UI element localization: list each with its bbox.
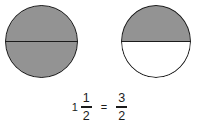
circle-whole-bottom-half xyxy=(5,42,78,79)
improper-fraction-denominator: 2 xyxy=(118,109,125,123)
circle-models-row xyxy=(0,0,199,84)
mixed-number-whole: 1 xyxy=(72,101,78,113)
fraction-equation: 1 1 2 = 3 2 xyxy=(0,88,199,126)
circle-model-whole xyxy=(5,5,78,78)
circle-model-half xyxy=(121,5,191,78)
mixed-number-numerator: 1 xyxy=(83,91,90,105)
circle-half-top-half xyxy=(121,5,191,42)
improper-fraction-numerator: 3 xyxy=(118,91,125,105)
circle-whole-top-half xyxy=(5,5,78,42)
equals-sign: = xyxy=(101,101,107,113)
circle-half-bottom-half xyxy=(121,42,191,79)
fraction-figure: 1 1 2 = 3 2 xyxy=(0,0,199,126)
improper-fraction-stack: 3 2 xyxy=(116,91,127,122)
circle-whole-divider xyxy=(5,41,78,43)
improper-fraction: 3 2 xyxy=(116,91,127,122)
mixed-number-denominator: 2 xyxy=(83,109,90,123)
mixed-number-fraction-bar xyxy=(81,106,92,107)
mixed-number: 1 1 2 xyxy=(72,91,92,122)
mixed-number-fraction: 1 2 xyxy=(81,91,92,122)
circle-half-divider xyxy=(121,41,191,43)
improper-fraction-bar xyxy=(116,106,127,107)
